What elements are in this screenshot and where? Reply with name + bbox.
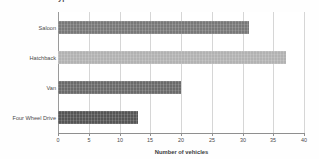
x-axis-tick — [120, 133, 121, 136]
x-axis-tick — [181, 133, 182, 136]
x-axis-tick-label: 10 — [109, 137, 131, 144]
x-axis-tick — [212, 133, 213, 136]
bar — [58, 111, 138, 124]
x-axis-tick — [243, 133, 244, 136]
x-axis-tick — [273, 133, 274, 136]
chart-title: ypes of vehicles — [58, 0, 298, 3]
x-axis-tick-label: 0 — [47, 137, 69, 144]
x-axis-tick-label: 30 — [232, 137, 254, 144]
bar — [58, 81, 181, 94]
x-axis-tick-label: 5 — [78, 137, 100, 144]
bar-chart: ypes of vehicles SaloonHatchbackVanFour … — [0, 0, 319, 159]
x-axis-tick — [150, 133, 151, 136]
bar — [58, 51, 286, 64]
bar — [58, 21, 249, 34]
x-axis-tick-label: 20 — [170, 137, 192, 144]
y-axis-category-labels: SaloonHatchbackVanFour Wheel Drive — [0, 12, 56, 133]
plot-area — [58, 12, 304, 133]
x-axis-tick — [89, 133, 90, 136]
x-axis-title: Number of vehicles — [58, 148, 305, 156]
y-axis-category-label: Hatchback — [0, 54, 56, 62]
y-axis-category-label: Saloon — [0, 24, 56, 32]
x-axis-tick — [58, 133, 59, 136]
x-axis-tick — [304, 133, 305, 136]
x-axis-tick-label: 35 — [262, 137, 284, 144]
x-axis-tick-label: 15 — [139, 137, 161, 144]
y-axis-category-label: Four Wheel Drive — [0, 114, 56, 122]
gridline — [304, 12, 305, 133]
x-axis-tick-label: 40 — [293, 137, 315, 144]
y-axis-category-label: Van — [0, 84, 56, 92]
gridline — [273, 12, 274, 133]
x-axis-tick-label: 25 — [201, 137, 223, 144]
